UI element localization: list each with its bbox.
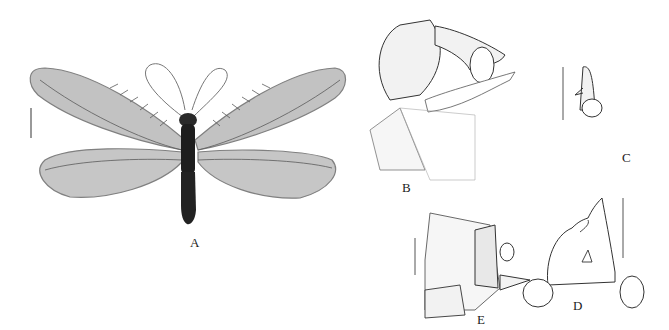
panel-label-e: E — [477, 312, 485, 328]
terminalia-lateral-illustration — [370, 20, 540, 195]
panel-c: C — [555, 60, 655, 170]
panel-label-a: A — [190, 235, 199, 251]
ectoproct-illustration — [555, 60, 655, 170]
habitus-illustration — [0, 0, 370, 330]
panel-b: B — [370, 20, 540, 195]
panel-label-c: C — [622, 150, 631, 166]
panel-a: A — [0, 0, 370, 330]
genitalia-dorsal-illustration — [520, 190, 669, 330]
panel-d: D — [520, 190, 669, 330]
panel-label-d: D — [573, 298, 582, 314]
